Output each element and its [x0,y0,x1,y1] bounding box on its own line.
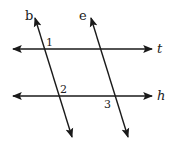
angle-1-label: 1 [46,36,53,49]
label-t: t [157,41,163,56]
line-b [35,18,72,137]
label-h: h [157,88,165,103]
label-e: e [79,8,87,23]
diagram-canvas: b e t h 1 2 3 [0,0,177,145]
line-e [91,18,128,137]
label-b: b [25,8,33,23]
angle-2-label: 2 [60,83,67,96]
angle-3-label: 3 [104,98,111,111]
